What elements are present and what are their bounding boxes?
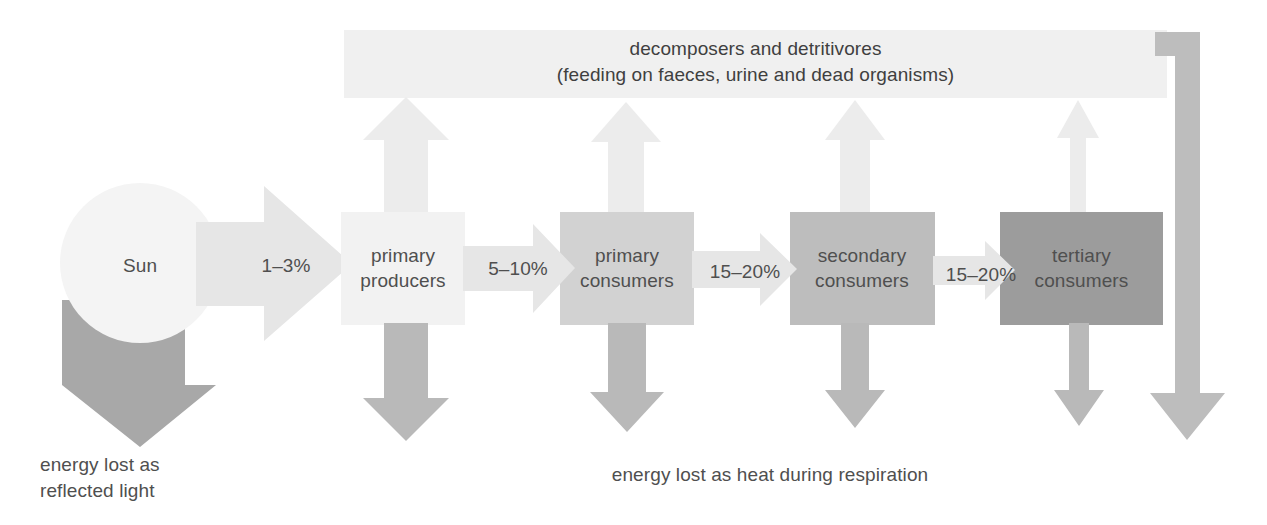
decomposers-banner-line2: (feeding on faeces, urine and dead organ… — [344, 62, 1167, 87]
up-arrow-producers-to-decomposers — [363, 97, 449, 215]
transfer-label-producers-to-primary: 5–10% — [468, 256, 568, 281]
node-label-primary-consumers: primary consumers — [560, 243, 694, 293]
caption-reflected-light-line2: reflected light — [10, 478, 310, 503]
energy-flow-diagram: decomposers and detritivores (feeding on… — [0, 0, 1267, 525]
down-arrow-primary-consumers-respiration — [590, 323, 664, 432]
transfer-label-primary-to-secondary: 15–20% — [690, 259, 800, 284]
caption-respiration-heat: energy lost as heat during respiration — [490, 462, 1050, 487]
node-label-primary-producers: primary producers — [341, 243, 465, 293]
up-arrow-tertiary-consumers-to-decomposers — [1057, 100, 1099, 215]
up-arrow-primary-consumers-to-decomposers — [591, 102, 661, 215]
down-arrow-producers-respiration — [363, 323, 449, 441]
down-arrow-tertiary-consumers-respiration — [1054, 323, 1104, 426]
transfer-label-sun-to-producers: 1–3% — [236, 253, 336, 278]
node-label-secondary-consumers: secondary consumers — [788, 243, 936, 293]
up-arrow-secondary-consumers-to-decomposers — [825, 100, 885, 215]
down-arrow-secondary-consumers-respiration — [825, 323, 885, 428]
node-label-tertiary-consumers: tertiary consumers — [1000, 243, 1163, 293]
sun-label: Sun — [80, 253, 200, 278]
caption-reflected-light-line1: energy lost as — [10, 452, 310, 477]
decomposers-banner-line1: decomposers and detritivores — [344, 36, 1167, 61]
